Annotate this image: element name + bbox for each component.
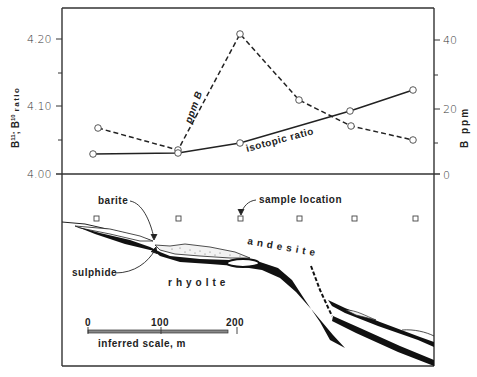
svg-text:andesite: andesite [247,235,320,258]
svg-text:B11; B10ratio: B11; B10ratio [10,87,21,148]
sample-location-markers [94,216,418,221]
figure: 4.20 4.10 4.00 40 20 0 B11; B10ratio B p… [0,0,477,377]
sample-location-label: sample location [259,194,342,205]
rhyolite-label: rhyolte [168,277,229,288]
left-tick-4-20: 4.20 [27,33,52,46]
scale-tick-100: 100 [151,317,169,328]
right-tick-40: 40 [443,34,457,47]
andesite-label: andesite [247,235,320,258]
series-ppm-b [95,31,417,154]
right-tick-0: 0 [443,169,450,182]
scale-tick-200: 200 [226,317,244,328]
svg-text:isotopic ratio: isotopic ratio [245,125,315,154]
svg-text:B ppm: B ppm [459,107,470,148]
sulphide-label: sulphide [72,267,117,278]
isotopic-ratio-label: isotopic ratio [245,125,315,154]
chart-frame [56,8,440,366]
left-tick-4-00: 4.00 [27,168,52,181]
right-tick-20: 20 [443,103,457,116]
right-axis-title: B ppm [459,107,470,148]
scale-caption: inferred scale, m [98,338,186,349]
scale-tick-0: 0 [85,317,91,328]
barite-label: barite [98,195,128,206]
left-axis-title: B11; B10ratio [10,87,21,148]
left-tick-4-10: 4.10 [27,100,52,113]
scale-bar: 0 100 200 inferred scale, m [85,317,244,349]
